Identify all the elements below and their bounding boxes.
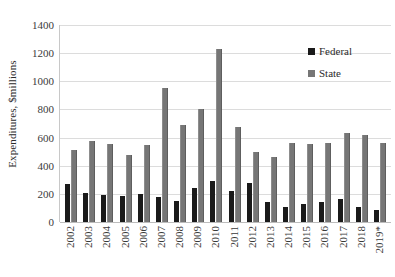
legend-item-label: State xyxy=(319,67,341,79)
bar-group xyxy=(171,25,189,222)
bar-state xyxy=(344,133,350,222)
x-tick-cell: 2002 xyxy=(61,224,79,276)
bar-federal xyxy=(356,207,361,222)
x-tick-label: 2002 xyxy=(64,226,76,248)
x-tick-cell: 2016 xyxy=(315,224,333,276)
x-tick-label: 2005 xyxy=(119,226,131,248)
bar-group xyxy=(117,25,135,222)
bar-state xyxy=(180,125,186,222)
legend-item-label: Federal xyxy=(319,45,352,57)
x-tick-cell: 2003 xyxy=(79,224,97,276)
bar-group xyxy=(98,25,116,222)
bar-federal xyxy=(101,195,106,222)
x-tick-cell: 2015 xyxy=(297,224,315,276)
x-tick-cell: 2013 xyxy=(261,224,279,276)
bar-federal xyxy=(319,202,324,222)
bar-group xyxy=(207,25,225,222)
x-tick-cell: 2017 xyxy=(334,224,352,276)
bar-state xyxy=(126,155,132,222)
bar-state xyxy=(198,109,204,222)
legend-item-federal[interactable]: Federal xyxy=(308,45,388,57)
federal-swatch-icon xyxy=(308,48,315,55)
x-tick-label: 2018 xyxy=(355,226,367,248)
x-tick-label: 2009 xyxy=(191,226,203,248)
y-tick-label: 1200 xyxy=(32,47,54,59)
y-tick-label: 0 xyxy=(49,216,55,228)
x-tick-cell: 2019* xyxy=(370,224,388,276)
bar-federal xyxy=(174,201,179,222)
x-tick-label: 2012 xyxy=(246,226,258,248)
x-tick-cell: 2014 xyxy=(279,224,297,276)
bar-state xyxy=(235,127,241,222)
bar-federal xyxy=(65,184,70,222)
x-tick-label: 2017 xyxy=(337,226,349,248)
x-tick-label: 2015 xyxy=(300,226,312,248)
bar-state xyxy=(362,135,368,222)
state-swatch-icon xyxy=(308,70,315,77)
bar-state xyxy=(144,145,150,222)
y-tick-label: 1000 xyxy=(32,75,54,87)
bar-group xyxy=(135,25,153,222)
bar-group xyxy=(153,25,171,222)
x-tick-label: 2014 xyxy=(282,226,294,248)
x-tick-cell: 2005 xyxy=(116,224,134,276)
bar-federal xyxy=(120,196,125,222)
x-tick-label: 2013 xyxy=(264,226,276,248)
bar-state xyxy=(289,143,295,223)
bar-group xyxy=(62,25,80,222)
x-tick-label: 2010 xyxy=(209,226,221,248)
bar-group xyxy=(189,25,207,222)
x-tick-cell: 2008 xyxy=(170,224,188,276)
chart-legend: FederalState xyxy=(308,45,388,89)
bar-federal xyxy=(283,207,288,222)
x-tick-cell: 2018 xyxy=(352,224,370,276)
bar-state xyxy=(89,141,95,222)
bar-group xyxy=(80,25,98,222)
x-tick-cell: 2004 xyxy=(97,224,115,276)
bar-federal xyxy=(210,181,215,223)
x-tick-cell: 2010 xyxy=(206,224,224,276)
y-tick-label: 600 xyxy=(38,132,55,144)
x-tick-cell: 2007 xyxy=(152,224,170,276)
bar-state xyxy=(380,143,386,222)
bar-state xyxy=(307,144,313,222)
y-axis-title-text: Expenditures, $millions xyxy=(6,60,18,167)
bar-federal xyxy=(83,193,88,222)
bar-group xyxy=(244,25,262,222)
legend-item-state[interactable]: State xyxy=(308,67,388,79)
y-tick-label: 400 xyxy=(38,160,55,172)
x-axis-tick-labels: 2002200320042005200620072008200920102011… xyxy=(59,224,390,276)
bar-federal xyxy=(247,183,252,222)
bar-state xyxy=(107,144,113,222)
x-tick-label: 2011 xyxy=(228,226,240,248)
x-tick-label: 2007 xyxy=(155,226,167,248)
axis-baseline xyxy=(60,222,391,223)
x-tick-cell: 2006 xyxy=(134,224,152,276)
x-tick-cell: 2011 xyxy=(225,224,243,276)
y-tick-label: 200 xyxy=(38,188,55,200)
bar-federal xyxy=(338,199,343,222)
x-tick-cell: 2012 xyxy=(243,224,261,276)
bar-state xyxy=(271,157,277,222)
bar-federal xyxy=(374,210,379,222)
y-tick-label: 1400 xyxy=(32,19,54,31)
x-tick-label: 2004 xyxy=(100,226,112,248)
y-axis-tick-labels: 1400120010008006004002000 xyxy=(20,18,56,224)
bar-federal xyxy=(156,197,161,222)
bar-federal xyxy=(138,194,143,222)
bar-federal xyxy=(265,202,270,222)
y-tick-label: 800 xyxy=(38,103,55,115)
bar-state xyxy=(253,152,259,222)
bar-group xyxy=(226,25,244,222)
bar-state xyxy=(216,49,222,222)
bar-group xyxy=(280,25,298,222)
x-tick-label: 2016 xyxy=(318,226,330,248)
y-axis-title: Expenditures, $millions xyxy=(2,0,22,228)
x-tick-label: 2019* xyxy=(373,226,385,254)
bar-state xyxy=(162,88,168,222)
x-tick-label: 2008 xyxy=(173,226,185,248)
bar-state xyxy=(71,150,77,222)
expenditures-bar-chart: Expenditures, $millions 1400120010008006… xyxy=(0,0,395,277)
bar-federal xyxy=(301,204,306,222)
bar-federal xyxy=(229,191,234,222)
